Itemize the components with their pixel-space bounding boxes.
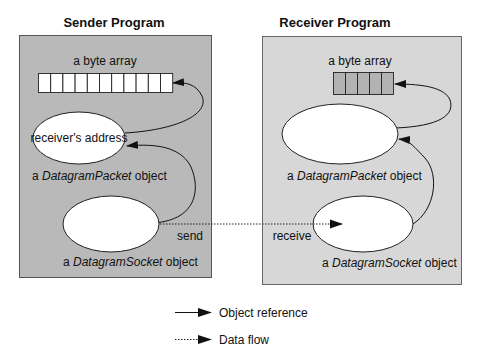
receive-label: receive <box>273 229 312 243</box>
sender-datagram-socket-ellipse <box>63 196 159 252</box>
sender-byte-array-label: a byte array <box>73 54 136 68</box>
legend-item-object-reference: Object reference <box>175 306 308 320</box>
receiver-socket-label: a DatagramSocket object <box>322 256 457 270</box>
legend-item-data-flow: Data flow <box>175 333 269 347</box>
receiver-datagram-packet-ellipse <box>282 104 398 164</box>
receiver-program-title: Receiver Program <box>279 15 390 30</box>
receivers-address-text: receiver's address <box>31 131 128 145</box>
legend-label-object-reference: Object reference <box>219 306 308 320</box>
sender-byte-array <box>39 74 173 93</box>
legend-label-data-flow: Data flow <box>219 333 269 347</box>
sender-packet-label: a DatagramPacket object <box>32 169 167 183</box>
receiver-byte-array-label: a byte array <box>328 54 391 68</box>
send-label: send <box>177 229 203 243</box>
sender-program-title: Sender Program <box>63 15 164 30</box>
receiver-byte-array <box>334 73 394 95</box>
receiver-packet-label: a DatagramPacket object <box>287 169 422 183</box>
legend: Object reference Data flow <box>175 306 308 347</box>
sender-socket-label: a DatagramSocket object <box>63 255 198 269</box>
datagram-diagram: Sender Program a byte array receiver's a… <box>0 0 479 355</box>
